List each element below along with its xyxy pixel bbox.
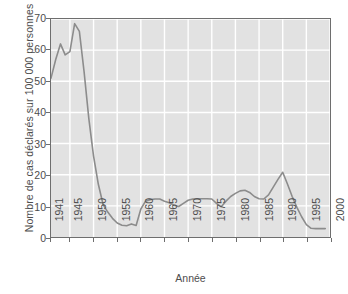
x-tick-label: 1965: [168, 198, 179, 242]
x-tick-mark: [50, 238, 51, 242]
x-tick-label: 1950: [97, 198, 108, 242]
y-tick-label: 0: [2, 233, 46, 244]
x-tick-label: 1980: [240, 198, 251, 242]
x-tick-mark: [212, 238, 213, 242]
x-tick-mark: [283, 238, 284, 242]
chart-figure: Nombre de cas déclarés sur 100 000 perso…: [0, 0, 348, 294]
y-tick-label: 10: [2, 202, 46, 213]
x-tick-label: 1960: [144, 198, 155, 242]
y-axis-title: Nombre de cas déclarés sur 100 000 perso…: [23, 3, 35, 233]
y-tick-label: 20: [2, 170, 46, 181]
x-tick-label: 1975: [216, 198, 227, 242]
x-tick-mark: [260, 238, 261, 242]
x-tick-label: 1985: [264, 198, 275, 242]
x-tick-label: 1941: [54, 198, 65, 242]
x-tick-label: 2000: [335, 198, 346, 242]
x-tick-label: 1945: [73, 198, 84, 242]
x-tick-mark: [236, 238, 237, 242]
x-tick-mark: [307, 238, 308, 242]
x-tick-label: 1970: [192, 198, 203, 242]
x-axis-title: Année: [50, 272, 331, 284]
y-tick-label: 40: [2, 107, 46, 118]
x-tick-mark: [69, 238, 70, 242]
y-tick-label: 50: [2, 76, 46, 87]
y-tick-label: 70: [2, 13, 46, 24]
x-tick-mark: [164, 238, 165, 242]
x-tick-mark: [188, 238, 189, 242]
x-tick-mark: [93, 238, 94, 242]
y-tick-label: 60: [2, 44, 46, 55]
x-tick-label: 1990: [287, 198, 298, 242]
x-tick-mark: [117, 238, 118, 242]
x-tick-label: 1955: [121, 198, 132, 242]
x-tick-mark: [140, 238, 141, 242]
y-tick-label: 30: [2, 139, 46, 150]
x-tick-label: 1995: [311, 198, 322, 242]
x-tick-mark: [331, 238, 332, 242]
